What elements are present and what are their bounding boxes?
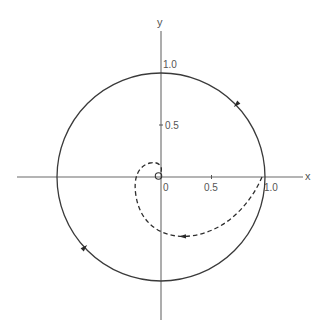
origin-label: 0 [163, 182, 169, 193]
phase-diagram: x y 0.5 1.0 0.5 1.0 0 [0, 0, 323, 334]
spiral-trajectory [135, 163, 262, 237]
y-tick-label-0-5: 0.5 [165, 120, 179, 131]
x-axis-label: x [305, 170, 311, 182]
x-tick-label-1-0: 1.0 [264, 182, 278, 193]
spiral-arrow-icon [179, 234, 186, 239]
y-axis-label: y [157, 16, 163, 28]
y-tick-label-1-0: 1.0 [163, 59, 177, 70]
x-tick-label-0-5: 0.5 [204, 182, 218, 193]
